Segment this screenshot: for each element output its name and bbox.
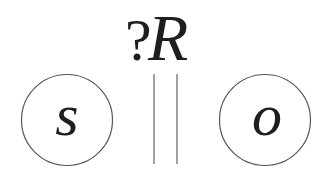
relation-label: ? R xyxy=(125,1,188,74)
parallel-separator xyxy=(154,74,177,164)
node-object: o xyxy=(220,75,311,166)
relation-diagram: ? R s o xyxy=(0,0,322,171)
relation-symbol: R xyxy=(147,1,188,74)
object-label: o xyxy=(252,82,282,148)
subject-label: s xyxy=(55,82,78,148)
node-subject: s xyxy=(22,75,113,166)
